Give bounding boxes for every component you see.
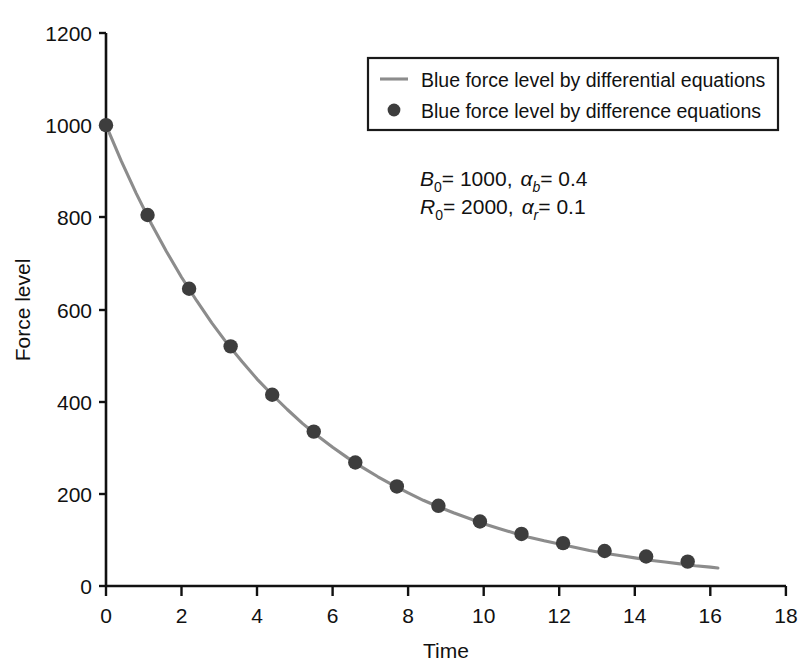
x-axis-title: Time [423,639,469,662]
annotation-var-r-value: = 2000, [443,195,514,218]
y-tick-label-400: 400 [57,391,92,414]
parameter-annotation: B0= 1000,αb= 0.4 R0= 2000,αr= 0.1 [420,167,588,223]
data-point [639,549,653,563]
legend-circle-swatch-icon [388,104,401,117]
legend-label-differential: Blue force level by differential equatio… [421,69,766,91]
x-tick-label-4: 4 [251,604,263,627]
legend: Blue force level by differential equatio… [368,58,778,130]
y-tick-label-1200: 1200 [45,22,92,45]
annotation-var-r: R [420,195,435,218]
data-point [556,536,570,550]
x-tick-label-16: 16 [699,604,722,627]
y-tick-label-0: 0 [80,575,92,598]
data-point [99,118,113,132]
x-tick-label-12: 12 [548,604,571,627]
y-tick-label-600: 600 [57,299,92,322]
annotation-var-b-value: = 1000, [442,167,513,190]
data-point [390,479,404,493]
data-point [307,424,321,438]
x-tick-label-18: 18 [774,604,797,627]
data-point [597,544,611,558]
data-point [223,339,237,353]
annotation-alpha-b-value: = 0.4 [540,167,588,190]
annotation-alpha-r-value: = 0.1 [538,195,585,218]
figure-container: 1200 1000 800 600 400 200 0 0 2 4 6 [0,0,811,672]
y-axis-title: Force level [11,259,34,362]
data-point [431,499,445,513]
data-point [680,554,694,568]
x-tick-label-2: 2 [176,604,188,627]
annotation-alpha-b-subscript: b [532,179,540,195]
y-tick-label-1000: 1000 [45,114,92,137]
annotation-var-r-subscript: 0 [435,207,443,223]
annotation-var-b-subscript: 0 [434,179,442,195]
x-tick-label-14: 14 [623,604,647,627]
x-tick-label-8: 8 [402,604,414,627]
data-point [182,282,196,296]
data-point [348,455,362,469]
data-point [140,208,154,222]
x-tick-label-0: 0 [100,604,112,627]
chart-canvas: 1200 1000 800 600 400 200 0 0 2 4 6 [0,0,811,672]
x-tick-label-10: 10 [472,604,495,627]
x-tick-label-6: 6 [327,604,339,627]
y-tick-label-800: 800 [57,206,92,229]
data-point [265,388,279,402]
legend-label-difference: Blue force level by difference equations [421,100,761,122]
data-point [473,514,487,528]
data-point [514,527,528,541]
annotation-var-b: B [420,167,434,190]
y-tick-label-200: 200 [57,483,92,506]
